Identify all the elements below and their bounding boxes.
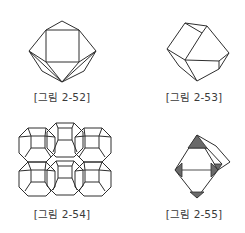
figure-2-54: [그림 2-54] (0, 116, 122, 233)
figure-caption: [그림 2-53] (166, 89, 222, 104)
figure-caption: [그림 2-52] (34, 89, 90, 104)
figure-2-53: [그림 2-53] (122, 0, 245, 116)
figure-caption: [그림 2-55] (166, 206, 222, 221)
figure-caption: [그림 2-54] (34, 206, 90, 221)
figure-2-55: [그림 2-55] (122, 116, 245, 233)
figure-2-52: [그림 2-52] (0, 0, 122, 116)
